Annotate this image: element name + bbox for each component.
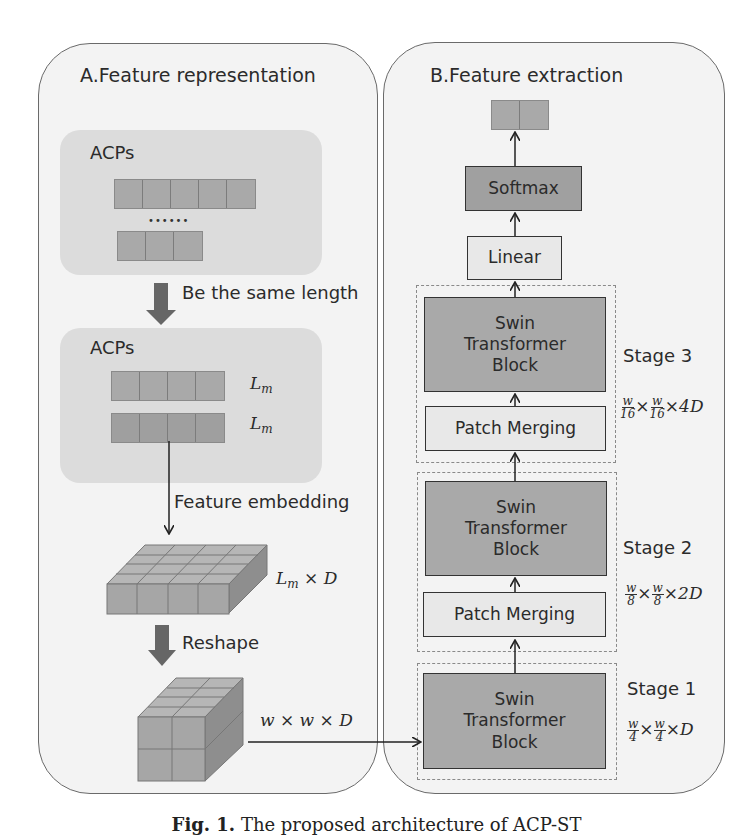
sequence-short bbox=[117, 231, 203, 261]
patch-merging-stage-2: Patch Merging bbox=[423, 592, 606, 637]
panel-b-title: B.Feature extraction bbox=[430, 64, 623, 86]
panel-a-title: A.Feature representation bbox=[80, 64, 316, 86]
softmax-box: Softmax bbox=[465, 166, 582, 211]
swin-block-stage-2: SwinTransformerBlock bbox=[425, 481, 607, 576]
stage-2-dim: w8×w8×2D bbox=[625, 582, 703, 607]
step-feature-embedding: Feature embedding bbox=[174, 491, 350, 512]
stage-3-dim: w16×w16×4D bbox=[620, 395, 704, 420]
acps-label-padded: ACPs bbox=[90, 337, 134, 358]
swin-block-stage-1: SwinTransformerBlock bbox=[423, 673, 606, 769]
length-label-2: Lm bbox=[250, 413, 273, 436]
stage-1-label: Stage 1 bbox=[627, 678, 696, 699]
sequence-padded-1 bbox=[111, 371, 225, 401]
stage-1-dim: w4×w4×D bbox=[627, 718, 694, 743]
figure-caption: Fig. 1. The proposed architecture of ACP… bbox=[0, 814, 753, 835]
sequence-padded-2 bbox=[111, 413, 225, 443]
linear-box: Linear bbox=[467, 236, 562, 280]
patch-merging-stage-3: Patch Merging bbox=[425, 406, 606, 451]
step-reshape: Reshape bbox=[182, 632, 259, 653]
length-label-1: Lm bbox=[250, 373, 273, 396]
ellipsis: •••••• bbox=[148, 215, 189, 226]
embedding-dim-label: Lm × D bbox=[276, 568, 337, 591]
reshape-dim-label: w × w × D bbox=[260, 710, 353, 730]
output-vector bbox=[491, 100, 549, 130]
stage-2-label: Stage 2 bbox=[623, 537, 692, 558]
stage-3-label: Stage 3 bbox=[623, 345, 692, 366]
swin-block-stage-3: SwinTransformerBlock bbox=[424, 297, 606, 392]
acps-label-raw: ACPs bbox=[90, 142, 134, 163]
sequence-long bbox=[114, 179, 256, 209]
step-same-length: Be the same length bbox=[182, 282, 359, 303]
